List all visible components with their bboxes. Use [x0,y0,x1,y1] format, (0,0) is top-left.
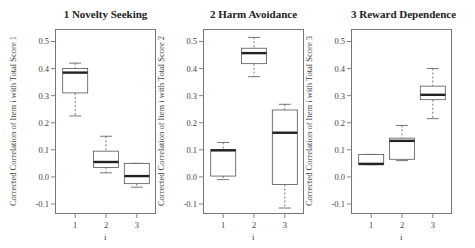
iqr-box [242,48,267,63]
y-tick-label: 0.3 [334,91,345,101]
x-tick-label: 2 [252,220,256,230]
x-axis-label: i [104,232,107,242]
iqr-box [211,150,236,176]
x-tick-label: 3 [431,220,435,230]
y-tick-label: 0.5 [38,36,49,46]
x-tick-label: 2 [400,220,404,230]
y-tick-label: 0.1 [334,145,345,155]
x-axis-label: i [400,232,403,242]
boxplot-svg: -0.10.00.10.20.30.40.5123 [148,0,308,248]
y-tick-label: 0.4 [38,64,49,74]
y-tick-label: -0.1 [184,199,197,209]
y-tick-label: 0.0 [38,172,49,182]
boxplot-svg: -0.10.00.10.20.30.40.5123 [296,0,456,248]
iqr-box [272,110,297,184]
boxplot-2 [390,125,415,160]
y-tick-label: 0.4 [334,64,345,74]
boxplot-3 [124,163,149,187]
chart-panel-harm-avoidance: 2 Harm Avoidance Corrected Correlation o… [148,0,308,248]
boxplot-1 [63,63,88,116]
boxplot-3 [420,69,445,119]
chart-panel-novelty-seeking: 1 Novelty Seeking Corrected Correlation … [0,0,160,248]
y-tick-label: 0.3 [38,91,49,101]
x-tick-label: 1 [221,220,225,230]
y-tick-label: -0.1 [332,199,345,209]
y-tick-label: 0.2 [334,118,345,128]
y-tick-label: 0.0 [186,172,197,182]
boxplot-3 [272,104,297,208]
iqr-box [124,163,149,183]
x-tick-label: 3 [283,220,287,230]
y-tick-label: 0.2 [38,118,49,128]
boxplot-svg: -0.10.00.10.20.30.40.5123 [0,0,160,248]
x-tick-label: 2 [104,220,108,230]
y-tick-label: 0.5 [186,36,197,46]
boxplot-1 [359,154,384,164]
y-tick-label: 0.5 [334,36,345,46]
y-tick-label: 0.0 [334,172,345,182]
y-tick-label: 0.4 [186,64,197,74]
y-tick-label: 0.2 [186,118,197,128]
boxplot-2 [94,136,119,173]
boxplot-2 [242,37,267,76]
iqr-box [420,86,445,100]
boxplot-1 [211,142,236,179]
x-tick-label: 1 [73,220,77,230]
x-tick-label: 1 [369,220,373,230]
y-tick-label: 0.1 [186,145,197,155]
y-tick-label: 0.1 [38,145,49,155]
iqr-box [94,151,119,167]
chart-panel-reward-dependence: 3 Reward Dependence Corrected Correlatio… [296,0,456,248]
x-tick-label: 3 [135,220,139,230]
x-axis-label: i [252,232,255,242]
y-tick-label: 0.3 [186,91,197,101]
y-tick-label: -0.1 [36,199,49,209]
